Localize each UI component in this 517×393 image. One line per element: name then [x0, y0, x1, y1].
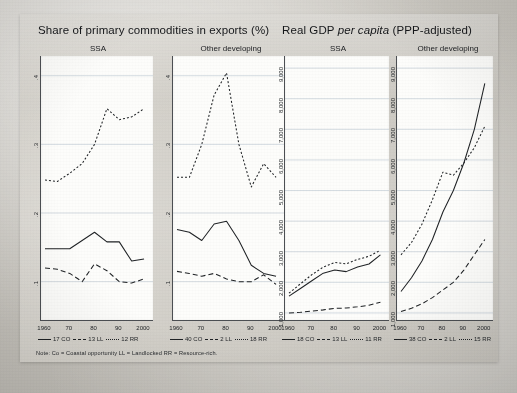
- gridlines-gdp-ssa: [285, 68, 389, 313]
- x-tick-label: 90: [454, 325, 472, 331]
- y-tick-label: 6,000: [390, 159, 396, 180]
- y-tick-label: 8,000: [390, 98, 396, 119]
- y-tick-label: 4,000: [278, 220, 284, 241]
- legend-label: 12 RR: [121, 336, 138, 342]
- series-line-17-co: [45, 232, 144, 261]
- y-tick-label: 4,000: [390, 220, 396, 241]
- x-tick-label: 80: [85, 325, 103, 331]
- group-title-gdp-italic: per capita: [338, 24, 390, 36]
- x-tick-label: 1960: [279, 325, 297, 331]
- legend-item[interactable]: 11 RR: [350, 336, 382, 342]
- legend-swatch-dash-icon: [317, 339, 330, 340]
- y-tick-label: 2,000: [390, 281, 396, 302]
- group-title-share: Share of primary commodities in exports …: [38, 24, 269, 36]
- group-title-gdp: Real GDP per capita (PPP-adjusted): [282, 24, 472, 36]
- figure-sheet: Share of primary commodities in exports …: [20, 14, 498, 362]
- legend-label: 11 RR: [365, 336, 382, 342]
- y-tick-label: .4: [165, 75, 171, 85]
- scanned-page-background: Share of primary commodities in exports …: [0, 0, 517, 393]
- panel-title-gdp-ssa: SSA: [278, 44, 398, 53]
- group-title-gdp-tail: (PPP-adjusted): [389, 24, 472, 36]
- plot-share-other-svg: [173, 56, 285, 320]
- y-tick-label: 5,000: [278, 190, 284, 211]
- legend-item[interactable]: 2 LL: [429, 336, 456, 342]
- legend-item[interactable]: 40 CO: [170, 336, 202, 342]
- plot-gdp-other-svg: [397, 56, 493, 320]
- legend-swatch-dash-icon: [73, 339, 86, 340]
- plot-share-ssa[interactable]: [40, 56, 153, 321]
- legend-item[interactable]: 17 CO: [38, 336, 70, 342]
- x-tick-label: 80: [325, 325, 343, 331]
- legend-swatch-dash-icon: [205, 339, 218, 340]
- x-tick-label: 1960: [391, 325, 409, 331]
- axis-ticks-share-other: [173, 76, 276, 320]
- legend-gdp_other: 38 CO2 LL15 RR: [394, 336, 491, 342]
- panel-title-share-ssa: SSA: [38, 44, 158, 53]
- legend-swatch-solid-icon: [38, 339, 51, 340]
- x-tick-label: 90: [109, 325, 127, 331]
- x-tick-label: 90: [241, 325, 259, 331]
- legend-label: 15 RR: [474, 336, 491, 342]
- plot-share-ssa-svg: [41, 56, 153, 320]
- series-line-13-ll: [289, 302, 380, 313]
- x-tick-label: 2000: [134, 325, 152, 331]
- legend-label: 40 CO: [185, 336, 202, 342]
- y-tick-label: 5,000: [390, 190, 396, 211]
- x-tick-label: 70: [192, 325, 210, 331]
- legend-label: 38 CO: [409, 336, 426, 342]
- legend-swatch-dot-icon: [459, 339, 472, 340]
- y-tick-label: 6,000: [278, 159, 284, 180]
- legend-item[interactable]: 15 RR: [459, 336, 491, 342]
- y-tick-label: .2: [33, 212, 39, 222]
- panel-title-share-other: Other developing: [166, 44, 296, 53]
- legend-share_other: 40 CO2 LL18 RR: [170, 336, 267, 342]
- legend-item[interactable]: 18 RR: [235, 336, 267, 342]
- series-lines-share-other: [177, 73, 276, 284]
- x-tick-label: 70: [302, 325, 320, 331]
- legend-item[interactable]: 38 CO: [394, 336, 426, 342]
- x-tick-label: 2000: [370, 325, 388, 331]
- legend-item[interactable]: 13 LL: [317, 336, 347, 342]
- legend-label: 17 CO: [53, 336, 70, 342]
- legend-item[interactable]: 18 CO: [282, 336, 314, 342]
- gridlines-share-ssa: [41, 76, 153, 282]
- y-tick-label: 7,000: [278, 128, 284, 149]
- series-line-2-ll: [401, 239, 485, 311]
- y-tick-label: .2: [165, 212, 171, 222]
- group-title-share-text: Share of primary commodities in exports …: [38, 24, 269, 36]
- x-tick-label: 2000: [475, 325, 493, 331]
- legend-swatch-solid-icon: [394, 339, 407, 340]
- y-tick-label: 2,000: [278, 281, 284, 302]
- legend-label: 18 CO: [297, 336, 314, 342]
- legend-label: 13 LL: [332, 336, 347, 342]
- plot-share-other[interactable]: [172, 56, 285, 321]
- plot-gdp-ssa[interactable]: [284, 56, 389, 321]
- legend-item[interactable]: 12 RR: [106, 336, 138, 342]
- y-tick-label: .3: [165, 143, 171, 153]
- gridlines-gdp-other: [397, 68, 493, 313]
- series-line-12-rr: [45, 109, 144, 182]
- panel-title-gdp-other: Other developing: [388, 44, 508, 53]
- series-lines-gdp-other: [401, 83, 485, 311]
- legend-share_ssa: 17 CO13 LL12 RR: [38, 336, 138, 342]
- x-tick-label: 1960: [35, 325, 53, 331]
- x-tick-label: 90: [348, 325, 366, 331]
- legend-gdp_ssa: 18 CO13 LL11 RR: [282, 336, 382, 342]
- series-line-18-rr: [177, 73, 276, 187]
- legend-label: 13 LL: [88, 336, 103, 342]
- series-line-13-ll: [45, 264, 144, 283]
- plot-gdp-other[interactable]: [396, 56, 493, 321]
- legend-item[interactable]: 2 LL: [205, 336, 232, 342]
- series-line-38-co: [401, 83, 485, 291]
- legend-item[interactable]: 13 LL: [73, 336, 103, 342]
- legend-swatch-solid-icon: [282, 339, 295, 340]
- x-tick-label: 1960: [167, 325, 185, 331]
- y-tick-label: .4: [33, 75, 39, 85]
- y-tick-label: .1: [165, 281, 171, 291]
- legend-swatch-dash-icon: [429, 339, 442, 340]
- y-tick-label: .1: [33, 281, 39, 291]
- legend-swatch-dot-icon: [350, 339, 363, 340]
- series-line-40-co: [177, 221, 276, 276]
- legend-label: 2 LL: [220, 336, 232, 342]
- x-tick-label: 70: [60, 325, 78, 331]
